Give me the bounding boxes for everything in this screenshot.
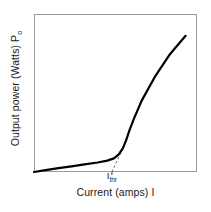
threshold-annotation-label: Ithr bbox=[97, 171, 127, 184]
y-axis-label-subscript: o bbox=[17, 31, 24, 35]
plot-canvas bbox=[34, 14, 197, 172]
y-axis-label-container: Output power (Watts) Po bbox=[0, 0, 34, 178]
threshold-label-subscript: thr bbox=[109, 176, 117, 183]
plot-area bbox=[34, 14, 197, 172]
chart-figure: Output power (Watts) Po Ithr Current (am… bbox=[0, 0, 211, 212]
y-axis-label: Output power (Watts) Po bbox=[10, 31, 23, 147]
y-axis-label-text: Output power (Watts) P bbox=[9, 35, 21, 147]
axes-frame bbox=[35, 15, 197, 172]
x-axis-label: Current (amps) I bbox=[34, 186, 197, 198]
